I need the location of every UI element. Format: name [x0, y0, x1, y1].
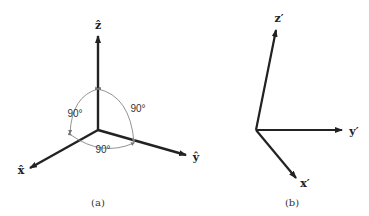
z-axis-label: ẑ [95, 19, 101, 32]
z-prime-axis-arrow [256, 30, 276, 130]
caption-a: (a) [91, 197, 105, 208]
angle-label-xz: 90° [67, 108, 82, 119]
x-prime-axis-arrow [256, 130, 296, 178]
y-prime-axis-label: y′ [348, 125, 358, 138]
coordinate-systems-diagram: ẑ ŷ x̂ 90° 90° 90° (a) z′ y′ x′ (b) [0, 0, 369, 216]
z-prime-axis-label: z′ [274, 12, 283, 25]
angle-label-xy: 90° [95, 144, 110, 155]
panel-a: ẑ ŷ x̂ 90° 90° 90° (a) [18, 19, 200, 208]
angle-label-yz: 90° [130, 103, 145, 114]
x-prime-axis-label: x′ [300, 177, 310, 190]
y-axis-label: ŷ [192, 151, 200, 164]
y-axis-arrow [98, 130, 186, 155]
x-axis-arrow [30, 130, 98, 168]
panel-b: z′ y′ x′ (b) [256, 12, 359, 208]
caption-b: (b) [285, 197, 299, 208]
x-axis-label: x̂ [18, 164, 25, 177]
